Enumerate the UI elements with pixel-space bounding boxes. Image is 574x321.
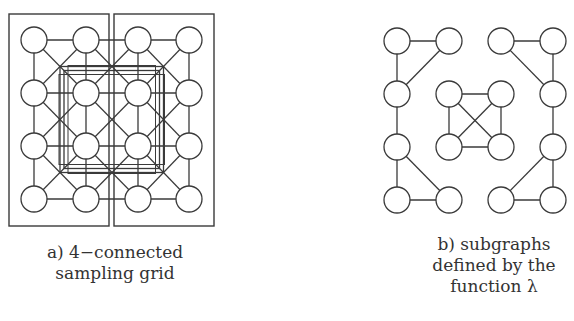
subgraph-node xyxy=(384,28,410,54)
grid-node xyxy=(21,186,47,212)
grid-node xyxy=(176,80,202,106)
subgraph-node xyxy=(488,134,514,160)
caption-b-line-1: b) subgraphs xyxy=(414,234,574,255)
subgraph-node xyxy=(488,81,514,107)
grid-node xyxy=(73,27,99,53)
caption-b: b) subgraphs defined by the function λ xyxy=(414,234,574,297)
caption-a-line-1: a) 4−connected xyxy=(20,242,210,263)
grid-node xyxy=(125,27,151,53)
caption-a: a) 4−connected sampling grid xyxy=(20,242,210,284)
caption-b-line-2: defined by the xyxy=(414,255,574,276)
grid-node xyxy=(73,133,99,159)
subgraph-node xyxy=(436,81,462,107)
grid-node xyxy=(176,133,202,159)
subgraph-node xyxy=(436,134,462,160)
subgraph-node xyxy=(540,81,566,107)
subgraph-node xyxy=(384,187,410,213)
grid-node xyxy=(125,80,151,106)
subgraph-node xyxy=(436,28,462,54)
caption-a-line-2: sampling grid xyxy=(20,263,210,284)
grid-node xyxy=(73,80,99,106)
subgraph-node xyxy=(488,28,514,54)
subgraph-node xyxy=(540,134,566,160)
grid-node xyxy=(176,186,202,212)
subgraph-node xyxy=(436,187,462,213)
subgraph-node xyxy=(540,187,566,213)
grid-node xyxy=(21,80,47,106)
subgraph-node xyxy=(488,187,514,213)
grid-node xyxy=(176,27,202,53)
grid-node xyxy=(73,186,99,212)
grid-node xyxy=(21,133,47,159)
grid-node xyxy=(21,27,47,53)
grid-node xyxy=(125,186,151,212)
caption-b-line-3: function λ xyxy=(414,276,574,297)
subgraph-node xyxy=(384,81,410,107)
subgraph-node xyxy=(540,28,566,54)
subgraph-node xyxy=(384,134,410,160)
grid-node xyxy=(125,133,151,159)
